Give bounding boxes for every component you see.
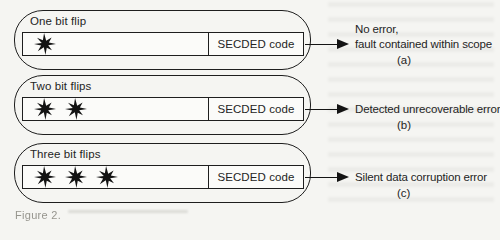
arrowhead-icon <box>337 39 349 49</box>
secded-code-label: SECDED code <box>217 171 294 183</box>
outcome-text: Detected unrecoverable error <box>355 102 500 117</box>
secded-code-cell: SECDED code <box>208 33 303 55</box>
scenario-row-two-bit-flips: Two bit flips SECDED code Detected unrec… <box>0 75 494 137</box>
outcome-line: No error, <box>355 22 492 37</box>
bit-flip-burst-icon <box>94 166 120 188</box>
outcome-text: No error, fault contained within scope <box>355 22 492 52</box>
flip-area <box>23 166 208 188</box>
flip-area <box>23 98 208 120</box>
arrowhead-icon <box>337 104 349 114</box>
secded-code-cell: SECDED code <box>208 98 303 120</box>
scenario-label: One bit flip <box>30 15 86 27</box>
outcome-line: Silent data corruption error <box>355 170 487 185</box>
arrowhead-icon <box>337 172 349 182</box>
data-word-box: SECDED code <box>22 97 304 121</box>
secded-code-label: SECDED code <box>217 103 294 115</box>
scenario-row-one-bit-flip: One bit flip SECDED code No error, fault… <box>0 10 494 72</box>
subfigure-label: (a) <box>397 54 411 66</box>
subfigure-label: (c) <box>397 187 410 199</box>
outcome-line: Detected unrecoverable error <box>355 102 500 117</box>
secded-code-cell: SECDED code <box>208 166 303 188</box>
scan-artifact <box>68 210 188 213</box>
flip-area <box>23 33 208 55</box>
caption-fragment: Figure 2. <box>15 209 61 221</box>
bit-flip-burst-icon <box>32 166 58 188</box>
figure-canvas: One bit flip SECDED code No error, fault… <box>0 0 494 240</box>
bit-flip-burst-icon <box>63 166 89 188</box>
secded-code-label: SECDED code <box>217 38 294 50</box>
subfigure-label: (b) <box>397 119 411 131</box>
arrow-right-icon <box>305 177 339 178</box>
arrow-right-icon <box>305 44 339 45</box>
scenario-label: Three bit flips <box>30 148 101 160</box>
bit-flip-burst-icon <box>32 98 58 120</box>
outcome-text: Silent data corruption error <box>355 170 487 185</box>
arrow-right-icon <box>305 109 339 110</box>
bit-flip-burst-icon <box>63 98 89 120</box>
outcome-line: fault contained within scope <box>355 37 492 52</box>
data-word-box: SECDED code <box>22 32 304 56</box>
scenario-label: Two bit flips <box>30 80 91 92</box>
data-word-box: SECDED code <box>22 165 304 189</box>
bit-flip-burst-icon <box>32 33 58 55</box>
scenario-row-three-bit-flips: Three bit flips SECDED code Silent data … <box>0 143 494 205</box>
